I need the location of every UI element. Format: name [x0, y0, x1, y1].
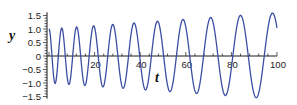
y-tick-label: 0.5 [28, 37, 41, 48]
y-axis: −1.5−1.0−0.500.51.01.5 [22, 10, 47, 102]
y-axis-label: y [7, 28, 16, 43]
y-tick-label: −1.5 [22, 91, 41, 102]
y-tick-label: 1.5 [28, 10, 41, 21]
y-tick-label: −0.5 [22, 64, 41, 75]
y-tick-label: 1.0 [28, 24, 41, 35]
line-chart: −1.5−1.0−0.500.51.01.5 20406080100 y t [0, 0, 297, 105]
y-tick-label: 0 [36, 51, 41, 62]
data-series-curve [49, 13, 277, 98]
x-axis-label: t [155, 70, 160, 85]
x-tick-label: 100 [270, 59, 286, 70]
y-tick-label: −1.0 [22, 78, 41, 89]
